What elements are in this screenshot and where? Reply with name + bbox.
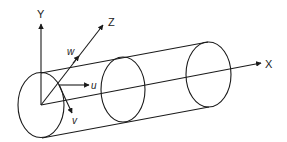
back-cross-section bbox=[186, 42, 231, 107]
z-axis-label: Z bbox=[108, 16, 115, 28]
w-label: w bbox=[67, 46, 75, 57]
y-axis-label: Y bbox=[37, 8, 45, 20]
x-axis-label: X bbox=[265, 58, 273, 70]
w-velocity-marker bbox=[73, 56, 79, 63]
v-label: v bbox=[72, 115, 78, 126]
cylinder-bottom-edge bbox=[42, 107, 209, 138]
cylinder-diagram: Y Z X w u v bbox=[0, 0, 287, 142]
x-axis bbox=[41, 63, 261, 105]
z-axis bbox=[41, 25, 103, 105]
u-label: u bbox=[91, 80, 97, 91]
